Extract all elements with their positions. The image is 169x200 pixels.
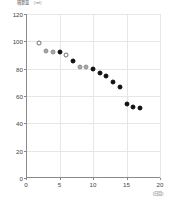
x-tick-label: 20 (150, 181, 169, 188)
y-axis-title-text: 積算量 (17, 0, 29, 5)
x-tick-mark (127, 178, 128, 180)
x-tick-mark (60, 178, 61, 180)
y-tick-mark (24, 14, 26, 15)
data-point (124, 102, 129, 107)
data-point (50, 50, 55, 55)
data-point (137, 105, 142, 110)
y-tick-mark (24, 69, 26, 70)
data-point (131, 104, 136, 109)
plot-area (26, 14, 160, 178)
gridline-x (160, 14, 161, 178)
data-point (97, 70, 102, 75)
y-tick-mark (24, 151, 26, 152)
data-point (70, 59, 75, 64)
data-point (37, 40, 42, 45)
x-axis-title: （日目） (150, 190, 166, 196)
y-tick-mark (24, 96, 26, 97)
y-tick-label: 60 (1, 93, 23, 100)
y-tick-label: 100 (1, 38, 23, 45)
x-tick-label: 5 (50, 181, 70, 188)
y-tick-mark (24, 41, 26, 42)
data-point (117, 85, 122, 90)
x-tick-mark (160, 178, 161, 180)
x-tick-label: 10 (83, 181, 103, 188)
data-point (64, 53, 69, 58)
y-tick-mark (24, 123, 26, 124)
data-point (44, 48, 49, 53)
x-tick-label: 15 (117, 181, 137, 188)
data-point (111, 79, 116, 84)
y-axis-title: 積算量（ml） (17, 0, 44, 6)
data-point (91, 66, 96, 71)
y-tick-label: 20 (1, 147, 23, 154)
data-point (57, 49, 62, 54)
y-axis-unit: （ml） (31, 0, 44, 5)
x-tick-label: 0 (16, 181, 36, 188)
x-tick-mark (26, 178, 27, 180)
data-point (104, 74, 109, 79)
x-tick-mark (93, 178, 94, 180)
scatter-chart: 積算量（ml） （日目） 020406080100120 05101520 (0, 0, 169, 200)
data-point (77, 65, 82, 70)
y-tick-label: 40 (1, 120, 23, 127)
y-tick-label: 120 (1, 11, 23, 18)
data-point (84, 65, 89, 70)
y-tick-label: 80 (1, 65, 23, 72)
